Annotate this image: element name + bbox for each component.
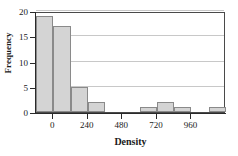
x-axis-tick [156,114,157,119]
x-axis-tick-label: 960 [175,120,205,130]
x-axis-title: Density [35,136,226,147]
y-axis-line [35,12,36,114]
plot-area [35,12,225,113]
y-axis-tick [30,63,35,64]
bars-group [36,13,224,112]
x-axis-tick-label: 240 [72,120,102,130]
histogram-bar [157,102,174,112]
histogram-bar [174,107,191,112]
x-axis-tick [121,114,122,119]
y-axis-tick-label: 0 [4,109,28,118]
x-axis-tick-label: 480 [106,120,136,130]
x-axis-line [35,113,226,114]
x-axis-tick [190,114,191,119]
gridline [36,10,224,11]
histogram-bar [209,107,226,112]
x-axis-tick [52,114,53,119]
histogram-bar [71,87,88,112]
y-axis-tick [30,88,35,89]
histogram-bar [88,102,105,112]
x-axis-tick-label: 720 [141,120,171,130]
x-axis-tick-label: 0 [37,120,67,130]
histogram-bar [36,16,53,112]
histogram-bar [140,107,157,112]
y-axis-title: Frequency [3,14,13,92]
histogram-bar [53,26,70,112]
y-axis-tick [30,37,35,38]
x-axis-tick [87,114,88,119]
histogram-chart: 05101520 Frequency 0240480720960 Density [0,0,238,156]
y-axis-tick [30,12,35,13]
